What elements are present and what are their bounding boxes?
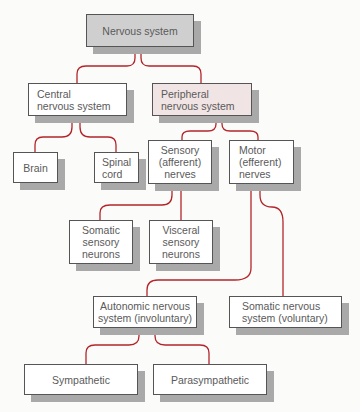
edge-cns-spinal: [80, 115, 116, 152]
node-visceral-sensory-neurons: Visceral sensory neurons: [149, 220, 213, 264]
connector-lines: [0, 0, 360, 412]
edge-autonomic-parasympathetic: [155, 327, 209, 364]
node-somatic-sensory-neurons: Somatic sensory neurons: [69, 220, 133, 264]
node-label: Motor (efferent) nerves: [239, 144, 281, 180]
node-spinal-cord: Spinal cord: [94, 152, 139, 183]
node-somatic-nervous-system: Somatic nervous system (voluntary): [229, 296, 342, 328]
node-nervous-system: Nervous system: [86, 14, 194, 47]
node-central-nervous-system: Central nervous system: [28, 83, 127, 116]
node-parasympathetic: Parasympathetic: [153, 364, 267, 395]
node-label: Central nervous system: [37, 88, 111, 112]
edge-pns-motor: [222, 115, 258, 140]
node-label: Nervous system: [102, 25, 177, 37]
node-label: Spinal cord: [102, 156, 131, 180]
node-label: Sensory (afferent) nerves: [159, 144, 201, 180]
node-sympathetic: Sympathetic: [24, 364, 138, 395]
node-label: Sympathetic: [52, 374, 110, 386]
node-label: Somatic sensory neurons: [82, 224, 120, 260]
node-label: Visceral sensory neurons: [162, 224, 200, 260]
edge-ns-cns: [77, 46, 135, 83]
nervous-system-diagram: Nervous system Central nervous system Pe…: [0, 0, 360, 412]
edge-ns-pns: [141, 46, 201, 83]
node-label: Brain: [23, 162, 48, 174]
node-brain: Brain: [13, 152, 58, 183]
edge-sensory-somatic: [100, 183, 172, 220]
node-peripheral-nervous-system: Peripheral nervous system: [152, 83, 252, 116]
node-sensory-nerves: Sensory (afferent) nerves: [148, 140, 212, 184]
edge-motor-somatic: [260, 183, 283, 296]
node-motor-nerves: Motor (efferent) nerves: [229, 140, 294, 184]
node-label: Somatic nervous system (voluntary): [242, 300, 328, 324]
node-label: Parasympathetic: [171, 374, 249, 386]
node-autonomic-nervous-system: Autonomic nervous system (involuntary): [93, 296, 197, 328]
node-label: Peripheral nervous system: [161, 88, 235, 112]
node-label: Autonomic nervous system (involuntary): [98, 300, 192, 324]
edge-autonomic-sympathetic: [86, 327, 139, 364]
edge-cns-brain: [35, 115, 72, 152]
edge-pns-sensory: [182, 115, 216, 140]
